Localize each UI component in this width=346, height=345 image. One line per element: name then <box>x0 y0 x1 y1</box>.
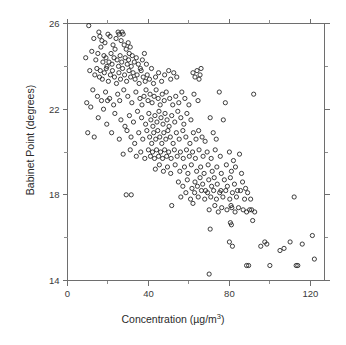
x-axis-title-close: ) <box>221 313 225 325</box>
data-point <box>172 148 176 152</box>
data-point <box>147 77 151 81</box>
data-point <box>169 171 173 175</box>
data-point <box>179 116 183 120</box>
data-point <box>158 150 162 154</box>
data-point <box>158 135 162 139</box>
data-point <box>117 137 121 141</box>
data-point <box>189 118 193 122</box>
data-point <box>209 156 213 160</box>
data-point <box>196 99 200 103</box>
data-point <box>154 148 158 152</box>
data-point <box>102 71 106 75</box>
data-point <box>118 54 122 58</box>
data-point <box>128 148 132 152</box>
data-point <box>140 103 144 107</box>
data-point <box>238 188 242 192</box>
data-point <box>141 137 145 141</box>
data-points <box>84 24 317 277</box>
data-point <box>192 191 196 195</box>
data-point <box>165 118 169 122</box>
data-point <box>221 195 225 199</box>
data-point <box>149 118 153 122</box>
data-point <box>116 92 120 96</box>
data-point <box>176 109 180 113</box>
data-point <box>160 92 164 96</box>
data-point <box>212 176 216 180</box>
data-point <box>93 73 97 77</box>
data-point <box>158 103 162 107</box>
data-point <box>153 167 157 171</box>
data-point <box>163 111 167 115</box>
data-point <box>100 77 104 81</box>
data-point <box>200 135 204 139</box>
y-tick-label: 14 <box>49 275 60 286</box>
data-point <box>182 165 186 169</box>
data-point <box>169 77 173 81</box>
data-point <box>144 122 148 126</box>
data-point <box>117 71 121 75</box>
data-point <box>167 150 171 154</box>
data-point <box>207 178 211 182</box>
data-point <box>150 101 154 105</box>
data-point <box>152 156 156 160</box>
data-point <box>154 137 158 141</box>
data-point <box>188 141 192 145</box>
data-point <box>112 103 116 107</box>
data-point <box>230 191 234 195</box>
data-point <box>146 99 150 103</box>
data-point <box>127 69 131 73</box>
data-point <box>222 178 226 182</box>
data-point <box>196 195 200 199</box>
data-point <box>163 73 167 77</box>
data-point <box>181 128 185 132</box>
data-point <box>129 75 133 79</box>
data-point <box>113 47 117 51</box>
data-point <box>191 201 195 205</box>
data-point <box>142 51 146 55</box>
data-point <box>157 163 161 167</box>
data-point <box>181 184 185 188</box>
data-point <box>213 203 217 207</box>
data-point <box>234 195 238 199</box>
data-point <box>168 96 172 100</box>
data-point <box>164 137 168 141</box>
data-point <box>139 116 143 120</box>
data-point <box>259 244 263 248</box>
data-point <box>173 120 177 124</box>
data-point <box>148 135 152 139</box>
data-point <box>278 248 282 252</box>
data-point <box>185 111 189 115</box>
y-tick-label: 18 <box>49 189 60 200</box>
data-point <box>167 69 171 73</box>
data-point <box>192 92 196 96</box>
data-point <box>246 191 250 195</box>
data-point <box>240 180 244 184</box>
data-point <box>142 94 146 98</box>
data-point <box>184 135 188 139</box>
data-point <box>97 75 101 79</box>
data-point <box>126 41 130 45</box>
data-point <box>149 66 153 70</box>
data-point <box>110 69 114 73</box>
data-point <box>122 43 126 47</box>
data-point <box>205 150 209 154</box>
data-point <box>230 244 234 248</box>
data-point <box>161 122 165 126</box>
data-point <box>233 165 237 169</box>
data-point <box>211 131 215 135</box>
axis-tick-labels: 2622181404080120 <box>49 18 318 299</box>
data-point <box>174 131 178 135</box>
data-point <box>114 81 118 85</box>
data-point <box>160 79 164 83</box>
data-point <box>156 128 160 132</box>
data-point <box>177 137 181 141</box>
data-point <box>206 163 210 167</box>
data-point <box>132 60 136 64</box>
data-point <box>86 131 90 135</box>
data-point <box>165 165 169 169</box>
data-point <box>209 195 213 199</box>
data-point <box>124 79 128 83</box>
data-point <box>98 34 102 38</box>
data-point <box>242 197 246 201</box>
data-point <box>217 90 221 94</box>
